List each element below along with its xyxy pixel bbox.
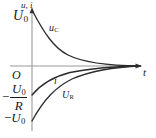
origin-label: O [12, 69, 21, 81]
x-axis-label: t [143, 67, 146, 78]
rc-discharge-figure: u, i t U0 O uC i UR − U0 R −U0 [0, 0, 156, 138]
y-tick-label-neg-U0-over-R: − U0 R [2, 82, 27, 112]
y-tick-U0-sub: 0 [23, 14, 28, 24]
fraction-numerator-sub: 0 [21, 87, 25, 97]
fraction-numerator-main: U [12, 81, 21, 96]
curve-label-uc: uC [49, 23, 59, 34]
y-tick-label-U0: U0 [13, 9, 28, 24]
fraction-numerator: U0 [11, 82, 27, 97]
curve-ur [32, 66, 140, 121]
y-tick-neg-U0-sub: 0 [21, 116, 26, 126]
curve-label-ur: UR [62, 90, 74, 101]
curve-label-i-main: i [54, 75, 57, 86]
curve-uc [32, 10, 140, 66]
y-tick-neg-U0-main: U [11, 110, 20, 125]
curve-label-ur-sub: R [69, 93, 74, 100]
curve-i [32, 66, 140, 95]
curve-label-i: i [54, 76, 57, 86]
y-tick-label-neg-U0: −U0 [4, 111, 25, 125]
fraction: U0 R [10, 82, 27, 112]
curve-label-uc-sub: C [54, 26, 59, 33]
neg-sign: − [2, 89, 10, 106]
y-tick-U0-main: U [13, 8, 23, 23]
